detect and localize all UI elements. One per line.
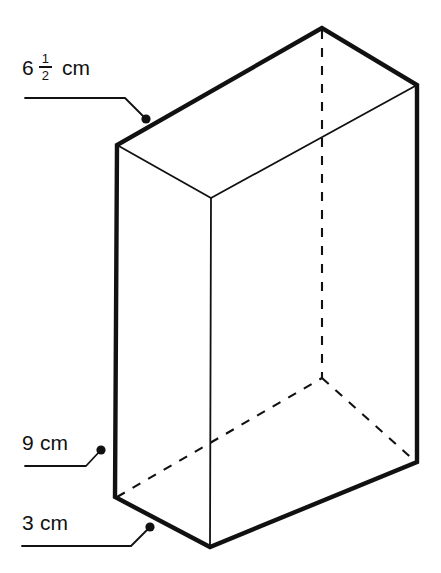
- bottom-back-left-hidden-edge: [117, 378, 322, 497]
- width-dimension-label: 3 cm: [22, 512, 68, 533]
- fraction-numerator: 1: [40, 52, 51, 66]
- top-face-left-edge: [117, 145, 211, 198]
- width-leader-dot: [145, 522, 154, 531]
- depth-leader-line: [25, 98, 145, 118]
- mixed-number-six-and-half: 6 1 2 cm: [22, 52, 90, 83]
- fraction-denominator: 2: [40, 68, 51, 82]
- top-face-right-edge: [211, 85, 417, 198]
- prism-diagram: [0, 0, 441, 573]
- hidden-edges-group: [117, 30, 416, 497]
- prism-outline: [115, 28, 417, 547]
- height-dimension-label: 9 cm: [22, 432, 68, 453]
- depth-unit: cm: [62, 57, 90, 78]
- fraction-one-half: 1 2: [38, 52, 53, 83]
- front-vertical-edge: [210, 198, 211, 547]
- depth-whole-number: 6: [22, 57, 34, 78]
- depth-leader-dot: [141, 114, 150, 123]
- depth-dimension-label: 6 1 2 cm: [22, 52, 90, 83]
- bottom-back-right-hidden-edge: [322, 378, 416, 462]
- interior-edges-group: [117, 85, 417, 547]
- height-leader-dot: [96, 445, 105, 454]
- figure-page: 6 1 2 cm 9 cm 3 cm: [0, 0, 441, 573]
- leader-lines-group: [22, 98, 155, 546]
